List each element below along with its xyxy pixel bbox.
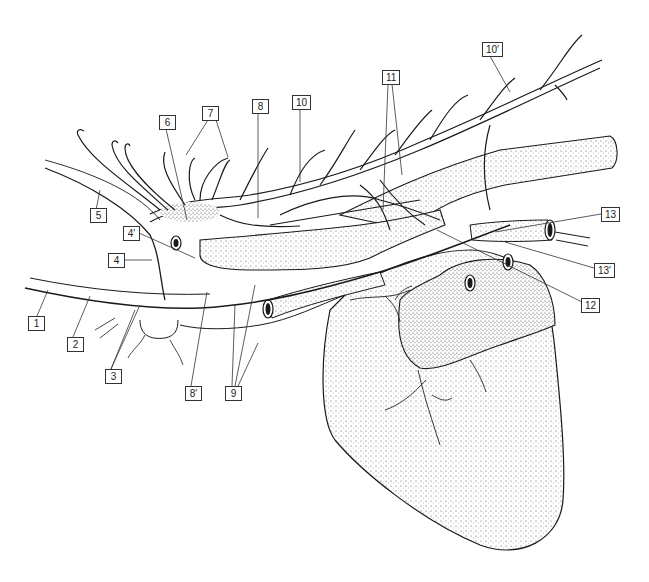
label-8-prime: 8′: [185, 386, 202, 401]
label-2: 2: [67, 337, 84, 352]
label-13: 13: [601, 207, 620, 222]
label-1: 1: [28, 316, 45, 331]
label-11: 11: [382, 70, 400, 85]
label-10: 10: [292, 95, 311, 110]
heart-nerve-diagram: [0, 0, 649, 582]
label-5: 5: [90, 208, 107, 223]
heart: [323, 250, 564, 550]
label-9: 9: [225, 386, 242, 401]
label-4-prime: 4′: [123, 226, 140, 241]
label-7: 7: [202, 106, 219, 121]
label-4: 4: [108, 253, 125, 268]
label-13-prime: 13′: [594, 263, 615, 278]
label-3: 3: [105, 369, 122, 384]
label-12: 12: [581, 298, 600, 313]
sympathetic-chain: [77, 35, 602, 230]
label-8: 8: [252, 99, 269, 114]
label-10-prime: 10′: [482, 42, 503, 57]
label-6: 6: [159, 115, 176, 130]
